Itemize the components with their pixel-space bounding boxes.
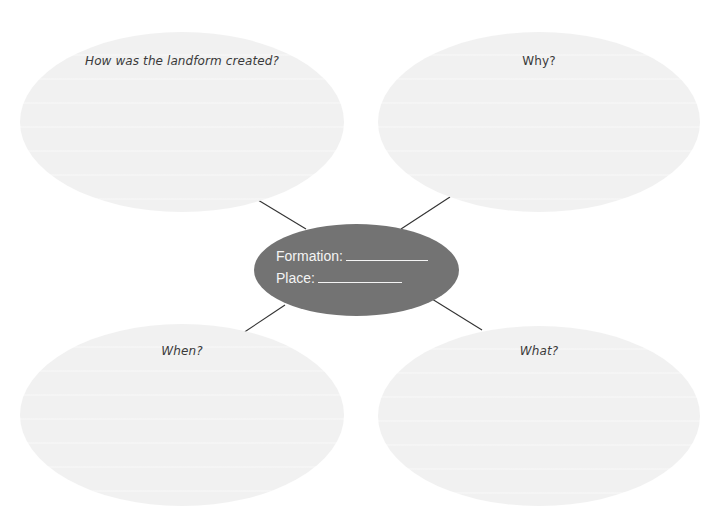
formation-blank-field[interactable] (346, 259, 428, 261)
formation-row: Formation: (276, 248, 428, 264)
bubble-prompt-why: Why? (378, 54, 700, 68)
place-row: Place: (276, 270, 402, 286)
connector-what (432, 299, 482, 330)
bubble-when[interactable]: When? (20, 324, 344, 506)
connector-how (258, 200, 306, 229)
place-blank-field[interactable] (318, 281, 402, 283)
center-node: Formation: Place: (254, 224, 459, 316)
bubble-prompt-how: How was the landform created? (20, 54, 344, 68)
bubble-prompt-what: What? (378, 344, 700, 358)
connector-why (401, 197, 450, 229)
place-label: Place: (276, 270, 315, 286)
bubble-what[interactable]: What? (378, 326, 700, 506)
bubble-why[interactable]: Why? (378, 32, 700, 212)
connector-when (243, 305, 285, 333)
bubble-prompt-when: When? (20, 344, 344, 358)
formation-label: Formation: (276, 248, 343, 264)
bubble-how-created[interactable]: How was the landform created? (20, 32, 344, 212)
